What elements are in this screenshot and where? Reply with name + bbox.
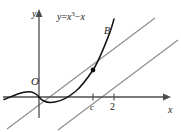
- figure-canvas: y x O B c 2 y=x3−x: [0, 0, 181, 132]
- curve-equation-label: y=x3−x: [57, 11, 85, 22]
- x-axis-arrowhead: [163, 94, 171, 101]
- x-tick-label-2: 2: [110, 102, 115, 112]
- tangent-line-at-c: [58, 40, 178, 130]
- x-tick-label-c: c: [90, 103, 94, 112]
- tangent-point-marker: [91, 68, 96, 73]
- math-plot-svg: [0, 0, 181, 132]
- y-axis-label: y: [32, 9, 36, 19]
- y-axis-arrowhead: [36, 9, 43, 17]
- x-axis-label: x: [168, 105, 172, 115]
- origin-label: O: [31, 76, 39, 87]
- equation-rhs: x: [80, 11, 84, 22]
- point-b-label: B: [104, 26, 110, 36]
